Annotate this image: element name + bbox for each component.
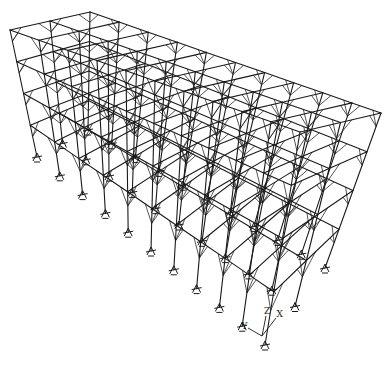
longitudinal-beam <box>265 188 291 201</box>
knee-brace <box>119 25 128 33</box>
longitudinal-beam <box>201 86 229 97</box>
transverse-beam <box>184 82 224 91</box>
longitudinal-beam <box>352 103 381 113</box>
longitudinal-beam <box>152 209 176 226</box>
longitudinal-beam <box>50 21 79 31</box>
knee-brace <box>113 117 121 124</box>
transverse-beam <box>72 75 109 87</box>
longitudinal-beam <box>79 31 108 41</box>
column <box>151 81 155 251</box>
transverse-beam <box>75 109 108 123</box>
transverse-beam <box>56 71 89 82</box>
column <box>174 91 184 270</box>
transverse-beam <box>101 122 135 137</box>
knee-brace <box>332 120 336 139</box>
longitudinal-beam <box>161 135 187 148</box>
longitudinal-beam <box>176 225 200 242</box>
knee-brace <box>257 70 262 85</box>
longitudinal-beam <box>302 157 330 169</box>
column <box>325 113 381 268</box>
knee-brace <box>108 25 119 33</box>
knee-brace <box>234 109 240 129</box>
transverse-beam <box>274 261 307 292</box>
transverse-beam <box>44 63 80 74</box>
knee-brace <box>137 35 147 44</box>
transverse-beam <box>79 22 119 31</box>
longitudinal-beam <box>201 242 225 259</box>
pinned-support-icon <box>290 303 300 312</box>
pinned-support-icon <box>32 153 42 162</box>
longitudinal-beam <box>103 175 127 192</box>
knee-brace <box>138 130 146 137</box>
knee-brace <box>68 34 80 43</box>
transverse-beam <box>99 87 136 99</box>
knee-brace <box>43 55 54 63</box>
transverse-beam <box>49 96 82 109</box>
column <box>79 31 86 160</box>
knee-brace <box>144 67 153 75</box>
knee-brace <box>263 119 269 140</box>
transverse-beam <box>50 12 90 21</box>
column <box>108 41 109 176</box>
z-axis-label: Z <box>264 306 270 316</box>
knee-brace <box>292 129 297 151</box>
knee-brace <box>166 45 176 54</box>
longitudinal-beam <box>265 73 294 83</box>
knee-brace <box>205 99 212 118</box>
longitudinal-beam <box>90 12 119 22</box>
longitudinal-beam <box>224 82 253 92</box>
longitudinal-beam <box>294 83 323 93</box>
transverse-beam <box>10 21 50 30</box>
longitudinal-beam <box>236 63 265 73</box>
longitudinal-beam <box>128 192 152 209</box>
coordinate-axes-triad: X Y Z <box>241 306 284 336</box>
transverse-beam <box>17 52 53 62</box>
knee-brace <box>224 65 233 74</box>
knee-brace <box>145 204 152 224</box>
knee-brace <box>79 15 90 23</box>
structural-frame-diagram: X Y Z <box>0 0 388 366</box>
transverse-beam <box>306 229 339 260</box>
longitudinal-beam <box>148 32 177 42</box>
column <box>225 92 253 258</box>
knee-brace <box>303 110 308 128</box>
longitudinal-beam <box>119 22 148 32</box>
knee-brace <box>90 15 98 22</box>
transverse-beam <box>108 32 148 41</box>
transverse-beam <box>39 31 79 40</box>
y-axis-label: Y <box>241 321 249 331</box>
knee-brace <box>88 104 95 111</box>
longitudinal-beam <box>108 41 137 51</box>
x-axis-label: X <box>277 309 284 319</box>
longitudinal-beam <box>137 51 166 61</box>
knee-brace <box>39 24 51 32</box>
transverse-beam <box>108 64 145 76</box>
transverse-beam <box>153 148 187 166</box>
column <box>10 30 37 157</box>
longitudinal-beam <box>166 62 195 72</box>
knee-brace <box>73 99 83 107</box>
longitudinal-beam <box>206 52 235 62</box>
knee-brace <box>147 35 156 43</box>
knee-braces <box>12 15 376 311</box>
longitudinal-beam <box>246 133 274 145</box>
knee-brace <box>117 56 125 64</box>
pinned-support-icon <box>320 264 330 273</box>
knee-brace <box>274 99 279 117</box>
longitudinal-beam <box>109 109 135 122</box>
transverse-beam <box>164 86 201 99</box>
knee-brace <box>126 54 137 64</box>
y-axis-arrow <box>248 328 262 336</box>
knee-brace <box>47 85 57 93</box>
longitudinal-beam <box>17 62 44 74</box>
longitudinal-beam <box>323 93 352 103</box>
transverse-beam <box>224 73 264 82</box>
transverse-beam <box>24 82 57 93</box>
longitudinal-beam <box>195 72 224 82</box>
transverse-beam <box>127 98 164 111</box>
beams <box>10 12 381 292</box>
knee-brace <box>71 66 82 74</box>
knee-brace <box>195 55 204 64</box>
longitudinal-beam <box>177 42 206 52</box>
